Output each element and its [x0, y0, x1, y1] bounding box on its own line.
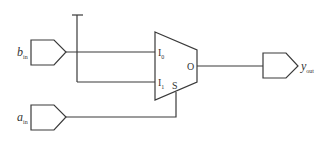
label-y-out: yout [300, 59, 314, 74]
label-o: O [187, 61, 194, 72]
circuit-diagram: bin ain yout I0 I1 O S [0, 0, 329, 141]
input-port-a [31, 105, 66, 130]
label-a-in: ain [17, 110, 28, 125]
input-port-b [31, 40, 66, 65]
label-s: S [172, 80, 178, 91]
label-b-in: bin [17, 45, 28, 60]
output-port-y [263, 53, 298, 78]
